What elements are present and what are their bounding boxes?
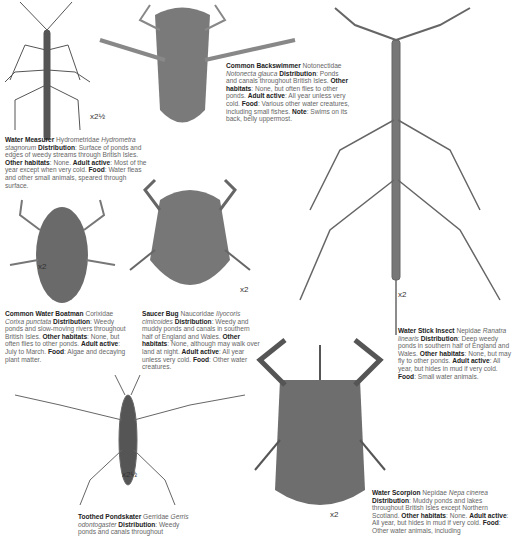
scale-label: x2½: [122, 470, 137, 479]
saucer-bug-caption: Saucer Bug Naucoridae Ilyocoris cimicoid…: [142, 310, 262, 371]
pondskater-illustration: [15, 375, 245, 505]
water-stick-insect-caption: Water Stick Insect Nepidae Ranatra linea…: [398, 327, 513, 380]
scale-label: x2½: [90, 112, 105, 121]
scale-label: x2: [398, 290, 406, 299]
water-stick-insect-illustration: [300, 8, 500, 335]
water-measurer-illustration: [5, 2, 90, 140]
scale-label: x2: [240, 285, 248, 294]
scale-label: x2: [38, 262, 46, 271]
water-boatman-caption: Common Water Boatman Corixidae Corixa pu…: [5, 310, 133, 363]
pondskater-caption: Toothed Pondskater Gerridae Gerris odont…: [78, 513, 198, 536]
water-measurer-caption: Water Measurer Hydrometridae Hydrometra …: [5, 136, 150, 189]
water-scorpion-caption: Water Scorpion Nepidae Nepa cinerea Dist…: [372, 489, 514, 535]
saucer-bug-illustration: [130, 180, 250, 285]
backswimmer-caption: Common Backswimmer Notonectidae Notonect…: [226, 62, 351, 123]
scale-label: x2: [330, 510, 338, 519]
water-boatman-illustration: [10, 200, 115, 303]
water-scorpion-illustration: [255, 340, 385, 505]
